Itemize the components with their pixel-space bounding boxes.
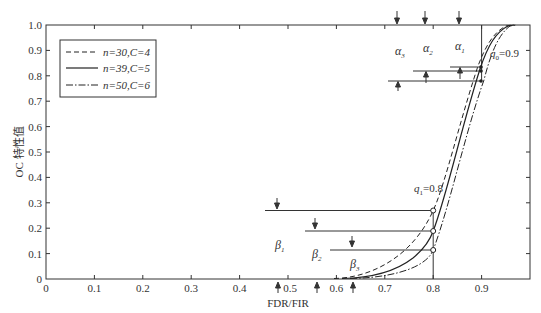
x-tick: 0.5 xyxy=(283,282,297,294)
top-arrows xyxy=(395,11,462,24)
y-tick: 0.9 xyxy=(28,44,42,56)
beta2-label: β2 xyxy=(311,247,322,263)
y-tick: 0.3 xyxy=(28,197,42,209)
series-n39-c5-solid xyxy=(342,25,514,279)
y-tick: 0.8 xyxy=(28,70,42,82)
x-tick: 0.9 xyxy=(475,282,489,294)
beta3-label: β3 xyxy=(349,257,360,273)
alpha-labels: α3 α2 α1 xyxy=(395,39,465,60)
y-tick: 0 xyxy=(37,273,43,285)
x-tick: 0.3 xyxy=(184,282,198,294)
y-tick: 0.2 xyxy=(28,222,42,234)
alpha-lines xyxy=(388,67,482,81)
beta-lines xyxy=(265,211,433,251)
y-axis-title: OC 特性值 xyxy=(12,126,25,177)
y-tick: 0.6 xyxy=(28,121,42,133)
legend: n=30,C=4 n=39,C=5 n=50,C=6 xyxy=(60,40,156,97)
x-tick: 0.1 xyxy=(88,282,102,294)
y-tick: 0.1 xyxy=(28,248,42,260)
y-tick: 1.0 xyxy=(28,19,42,31)
x-tick: 0.4 xyxy=(233,282,247,294)
x-tick: 0.2 xyxy=(136,282,150,294)
series-n30-c4-dashed xyxy=(334,25,512,279)
beta-labels: β1 β2 β3 xyxy=(274,238,360,273)
beta1-label: β1 xyxy=(274,238,284,254)
x-tick: 0.8 xyxy=(426,282,440,294)
x-axis-title: FDR/FIR xyxy=(267,297,309,309)
alpha2-label: α2 xyxy=(423,41,433,57)
x-tick-labels: 0 0.1 0.2 0.3 0.4 0.5 0.6 0.7 0.8 0.9 xyxy=(43,282,489,294)
alpha3-label: α3 xyxy=(395,44,405,60)
alpha1-label: α1 xyxy=(455,39,465,55)
q0-markers xyxy=(479,65,483,83)
beta-arrows xyxy=(275,198,355,247)
y-tick: 0.7 xyxy=(28,95,42,107)
legend-item: n=39,C=5 xyxy=(103,62,150,74)
oc-chart: 0 0.1 0.2 0.3 0.4 0.5 0.6 0.7 0.8 0.9 1.… xyxy=(0,0,541,313)
y-tick: 0.4 xyxy=(28,171,42,183)
y-tick-labels: 0 0.1 0.2 0.3 0.4 0.5 0.6 0.7 0.8 0.9 1.… xyxy=(28,19,42,285)
x-tick: 0.7 xyxy=(378,282,392,294)
legend-item: n=50,C=6 xyxy=(103,79,150,91)
legend-item: n=30,C=4 xyxy=(103,46,150,58)
x-tick: 0.6 xyxy=(330,282,344,294)
x-tick: 0 xyxy=(43,282,49,294)
q0-annotation: q0=0.9 xyxy=(490,47,519,62)
y-tick: 0.5 xyxy=(28,146,42,158)
